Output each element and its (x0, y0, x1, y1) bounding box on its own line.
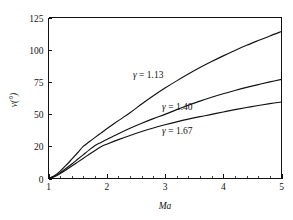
prandtl-meyer-chart: 0205075100125 12345 γ = 1.13γ = 1.40γ = … (0, 0, 293, 220)
x-tick-label: 4 (221, 182, 226, 192)
series-label: γ = 1.13 (133, 70, 164, 80)
x-tick-label: 1 (46, 182, 51, 192)
y-tick-label: 125 (29, 14, 44, 24)
chart-figure: 0205075100125 12345 γ = 1.13γ = 1.40γ = … (0, 0, 293, 220)
y-tick-label: 100 (29, 46, 44, 56)
chart-background (0, 0, 293, 220)
series-label: γ = 1.40 (162, 102, 193, 112)
x-tick-label: 3 (163, 182, 168, 192)
y-tick-label: 0 (39, 175, 44, 185)
x-tick-label: 2 (104, 182, 109, 192)
y-tick-label: 50 (34, 110, 44, 120)
y-axis-title: v(°) (9, 93, 20, 107)
x-tick-label: 5 (279, 182, 284, 192)
y-tick-label: 75 (34, 78, 44, 88)
y-tick-label: 20 (34, 142, 44, 152)
series-label: γ = 1.67 (162, 126, 193, 136)
x-axis-title: Ma (158, 201, 172, 211)
